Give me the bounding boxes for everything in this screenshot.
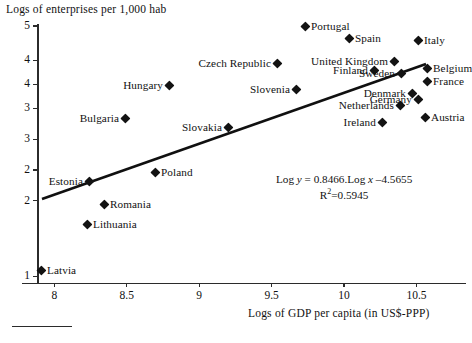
x-tick-mark xyxy=(271,283,272,287)
x-tick-label: 9.5 xyxy=(247,289,297,301)
diamond-marker-icon xyxy=(291,84,301,94)
equation-middle: = 0.8466.Log xyxy=(302,173,368,185)
diamond-marker-icon xyxy=(84,176,94,186)
data-point-label: Hungary xyxy=(123,80,163,91)
data-point-label: Sweden xyxy=(359,68,395,79)
x-tick-mark xyxy=(343,283,344,287)
regression-equation-line: Log y = 0.8466.Log x –4.5655 xyxy=(276,172,412,187)
data-point-label: Bulgaria xyxy=(80,113,119,124)
x-axis-line xyxy=(22,283,466,284)
diamond-marker-icon xyxy=(389,56,399,66)
diamond-marker-icon xyxy=(422,76,432,86)
data-point-label: Ireland xyxy=(344,117,376,128)
diamond-marker-icon xyxy=(344,33,354,43)
diamond-marker-icon xyxy=(120,113,130,123)
x-tick-label: 9 xyxy=(174,289,224,301)
x-tick-mark xyxy=(126,283,127,287)
r-squared-value: =0.5945 xyxy=(331,189,368,201)
y-tick-label: 3 xyxy=(4,101,30,113)
y-tick-mark xyxy=(33,25,38,26)
x-tick-mark xyxy=(416,283,417,287)
y-axis-line xyxy=(37,24,39,283)
data-point-label: France xyxy=(433,76,464,87)
diamond-marker-icon xyxy=(82,219,92,229)
x-tick-label: 8.5 xyxy=(102,289,152,301)
diamond-marker-icon xyxy=(150,167,160,177)
y-tick-mark xyxy=(33,84,38,85)
diamond-marker-icon xyxy=(164,80,174,90)
y-tick-mark xyxy=(33,108,38,109)
footnote-separator-rule xyxy=(12,326,72,327)
regression-equation-annotation: Log y = 0.8466.Log x –4.5655 R2=0.5945 xyxy=(276,172,412,203)
data-point-label: Austria xyxy=(431,112,465,123)
x-tick-mark xyxy=(199,283,200,287)
data-point-label: Romania xyxy=(110,199,151,210)
diamond-marker-icon xyxy=(422,63,432,73)
r-squared-line: R2=0.5945 xyxy=(276,187,412,203)
diamond-marker-icon xyxy=(99,199,109,209)
y-tick-label: 4 xyxy=(4,77,30,89)
data-point-label: Estonia xyxy=(49,176,83,187)
diamond-marker-icon xyxy=(396,68,406,78)
x-tick-mark xyxy=(54,283,55,287)
data-point-label: Portugal xyxy=(311,21,350,32)
data-point-label: Slovenia xyxy=(250,84,290,95)
y-tick-mark xyxy=(33,276,38,277)
y-tick-mark xyxy=(33,139,38,140)
data-point-label: Czech Republic xyxy=(198,58,271,69)
y-tick-label: 3 xyxy=(4,132,30,144)
x-tick-label: 8 xyxy=(29,289,79,301)
y-tick-label: 5 xyxy=(4,19,30,31)
diamond-marker-icon xyxy=(420,112,430,122)
y-tick-label: 4 xyxy=(4,53,30,65)
data-point-label: Poland xyxy=(161,167,193,178)
y-tick-label: 1 xyxy=(4,269,30,281)
data-point-label: Italy xyxy=(424,35,445,46)
data-point-label: Spain xyxy=(355,33,381,44)
y-tick-label: 2 xyxy=(4,194,30,206)
y-tick-mark xyxy=(33,60,38,61)
equation-suffix: –4.5655 xyxy=(373,173,412,185)
x-tick-label: 10.5 xyxy=(391,289,441,301)
data-point-label: Lithuania xyxy=(93,219,137,230)
diamond-marker-icon xyxy=(300,21,310,31)
y-tick-mark xyxy=(33,169,38,170)
data-point-label: Slovakia xyxy=(182,122,222,133)
data-point-label: Latvia xyxy=(47,265,76,276)
diamond-marker-icon xyxy=(377,117,387,127)
x-axis-title: Logs of GDP per capita (in US$-PPP) xyxy=(248,307,430,319)
data-point-label: Belgium xyxy=(433,63,472,74)
y-tick-label: 2 xyxy=(4,163,30,175)
x-tick-label: 10 xyxy=(319,289,369,301)
equation-prefix: Log xyxy=(276,173,297,185)
y-axis-title: Logs of enterprises per 1,000 hab xyxy=(6,3,167,15)
diamond-marker-icon xyxy=(223,122,233,132)
data-point-label: Netherlands xyxy=(339,100,394,111)
y-tick-mark xyxy=(33,200,38,201)
diamond-marker-icon xyxy=(272,58,282,68)
diamond-marker-icon xyxy=(413,35,423,45)
